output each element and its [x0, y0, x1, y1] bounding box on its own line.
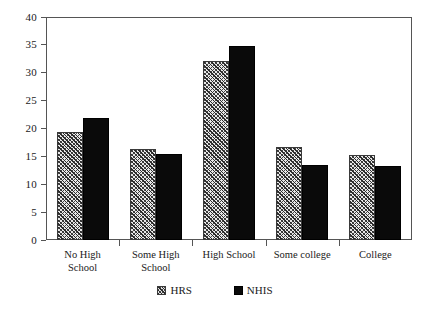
legend-item-hrs: HRS — [157, 285, 191, 296]
chart-legend: HRS NHIS — [0, 285, 430, 296]
bar-nhis — [229, 46, 255, 240]
y-axis-tick-label: 40 — [26, 12, 41, 23]
bar-nhis — [302, 165, 328, 240]
bars-layer — [46, 17, 412, 240]
y-axis-tick-label: 20 — [26, 123, 41, 134]
x-axis-category-label: Some High School — [119, 243, 192, 283]
y-axis-tick-label: 25 — [26, 95, 41, 106]
bar-hrs — [130, 149, 156, 240]
bar-group — [266, 17, 339, 240]
x-axis-tick-mark — [192, 240, 193, 246]
x-axis-category-label: College — [339, 243, 412, 283]
x-axis-category-label: No High School — [46, 243, 119, 283]
bar-group — [119, 17, 192, 240]
x-axis-tick-mark — [339, 240, 340, 246]
x-axis-category-label: High School — [192, 243, 265, 283]
y-axis: 0510152025303540 — [0, 0, 46, 310]
bar-hrs — [57, 132, 83, 240]
y-axis-tick-label: 30 — [26, 67, 41, 78]
legend-label-hrs: HRS — [170, 285, 191, 296]
bar-hrs — [203, 61, 229, 240]
y-axis-tick-label: 0 — [31, 235, 41, 246]
y-axis-tick-label: 15 — [26, 151, 41, 162]
x-axis-tick-mark — [119, 240, 120, 246]
y-axis-tick-label: 5 — [31, 207, 41, 218]
x-axis: No High SchoolSome High SchoolHigh Schoo… — [46, 243, 412, 283]
bar-group — [192, 17, 265, 240]
x-axis-category-label: Some college — [266, 243, 339, 283]
bar-nhis — [156, 154, 182, 240]
legend-swatch-hrs-icon — [157, 286, 166, 295]
legend-item-nhis: NHIS — [234, 285, 273, 296]
bar-group — [339, 17, 412, 240]
bar-hrs — [276, 147, 302, 240]
x-axis-tick-mark — [266, 240, 267, 246]
legend-label-nhis: NHIS — [247, 285, 273, 296]
y-axis-tick-label: 10 — [26, 179, 41, 190]
bar-hrs — [349, 155, 375, 240]
bar-nhis — [83, 118, 109, 240]
bar-group — [46, 17, 119, 240]
bar-nhis — [375, 166, 401, 240]
y-axis-tick-label: 35 — [26, 39, 41, 50]
legend-swatch-nhis-icon — [234, 286, 243, 295]
bar-chart: 0510152025303540 No High SchoolSome High… — [0, 0, 430, 310]
